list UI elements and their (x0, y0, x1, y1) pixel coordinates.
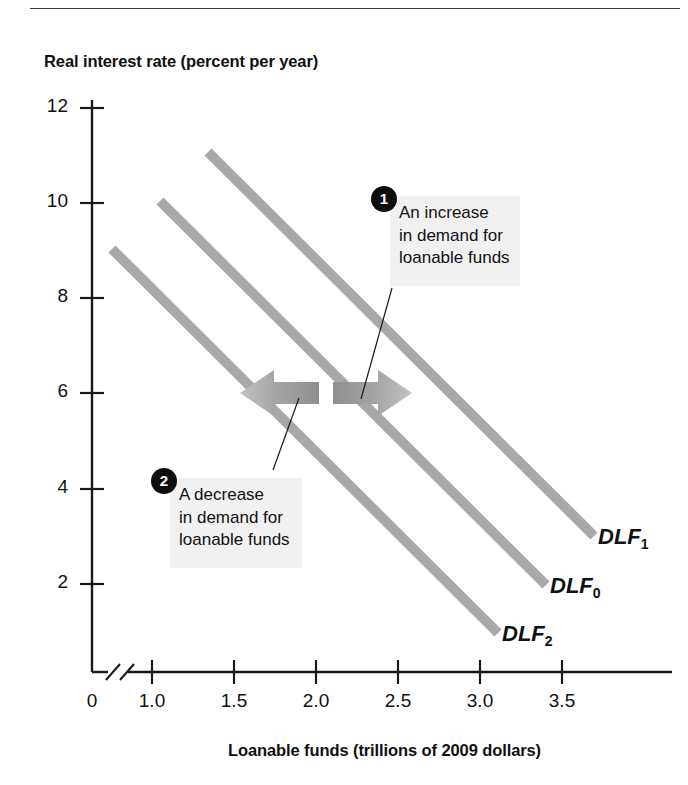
callout-decrease-in-demand: A decrease in demand for loanable funds (170, 478, 302, 568)
loanable-funds-demand-shift-figure: Real interest rate (percent per year) (0, 0, 688, 785)
curve-label-dlf2-text: DLF (502, 621, 545, 646)
plot-canvas (0, 0, 688, 785)
y-tick-label-4: 4 (28, 476, 68, 498)
curve-label-dlf1-text: DLF (598, 524, 641, 549)
curve-label-dlf1-subscript: 1 (641, 536, 649, 552)
x-tick-label-3-0: 3.0 (450, 690, 510, 712)
curve-label-dlf2-subscript: 2 (545, 633, 553, 649)
y-tick-label-10: 10 (28, 190, 68, 212)
curve-label-dlf0: DLF0 (550, 573, 601, 601)
x-axis-title: Loanable funds (trillions of 2009 dollar… (228, 741, 541, 760)
x-tick-label-0: 0 (62, 690, 122, 712)
curve-label-dlf1: DLF1 (598, 524, 649, 552)
callout-badge-1: 1 (371, 186, 397, 212)
x-tick-label-1-5: 1.5 (204, 690, 264, 712)
y-tick-label-6: 6 (28, 380, 68, 402)
y-tick-label-12: 12 (28, 95, 68, 117)
curve-label-dlf0-subscript: 0 (593, 585, 601, 601)
callout-increase-in-demand: An increase in demand for loanable funds (390, 196, 520, 286)
callout-badge-2: 2 (151, 468, 177, 494)
x-tick-label-2-0: 2.0 (286, 690, 346, 712)
curve-label-dlf0-text: DLF (550, 573, 593, 598)
curve-dlf2 (112, 249, 498, 633)
x-tick-label-2-5: 2.5 (368, 690, 428, 712)
x-tick-label-1-0: 1.0 (122, 690, 182, 712)
curve-label-dlf2: DLF2 (502, 621, 553, 649)
y-tick-label-2: 2 (28, 571, 68, 593)
y-tick-label-8: 8 (28, 285, 68, 307)
x-tick-label-3-5: 3.5 (532, 690, 592, 712)
